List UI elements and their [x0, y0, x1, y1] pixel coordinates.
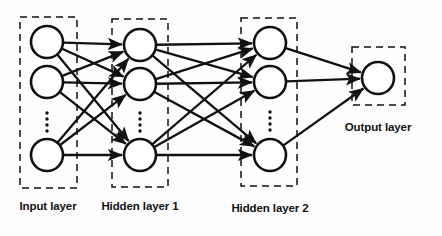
neuron-output-1	[362, 62, 394, 94]
neuron-input-3	[31, 139, 63, 171]
ellipsis-input	[45, 111, 48, 132]
neuron-input-1	[31, 26, 63, 58]
neuron-input-2	[31, 66, 63, 98]
neuron-hidden1-3	[124, 139, 156, 171]
layer-label-hidden1: Hidden layer 1	[101, 200, 179, 212]
layer-label-input: Input layer	[19, 200, 77, 212]
layer-label-output: Output layer	[345, 121, 412, 133]
connection-input-0-to-hidden1-0	[63, 43, 122, 45]
neuron-hidden2-2	[254, 66, 286, 98]
connection-hidden2-1-to-output-0	[286, 79, 360, 82]
connection-hidden1-1-to-hidden2-1	[157, 82, 253, 83]
neuron-hidden1-1	[124, 29, 156, 61]
layer-labels: Input layerHidden layer 1Hidden layer 2O…	[19, 121, 411, 214]
connection-hidden1-0-to-hidden2-0	[157, 43, 253, 44]
neuron-hidden2-3	[254, 139, 286, 171]
ellipsis-hidden1	[138, 111, 141, 132]
connection-edges	[57, 43, 363, 155]
layer-label-hidden2: Hidden layer 2	[231, 202, 308, 214]
connection-input-1-to-hidden1-1	[64, 82, 123, 83]
neural-network-diagram: Input layerHidden layer 1Hidden layer 2O…	[0, 0, 442, 236]
neuron-nodes	[31, 26, 394, 171]
network-canvas: Input layerHidden layer 1Hidden layer 2O…	[0, 0, 442, 236]
neuron-hidden1-2	[124, 68, 156, 100]
neuron-hidden2-1	[254, 27, 286, 59]
ellipsis-hidden2	[268, 110, 271, 131]
